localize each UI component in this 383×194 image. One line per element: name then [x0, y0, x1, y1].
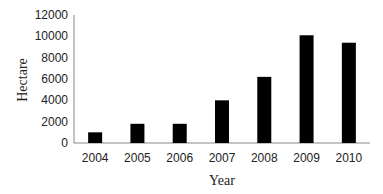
bar-2007	[215, 100, 229, 143]
x-tick-label: 2006	[166, 151, 193, 165]
x-axis-label: Year	[209, 173, 235, 188]
x-tick-label: 2004	[82, 151, 109, 165]
bar-2008	[257, 77, 271, 143]
bar-chart: 020004000600080001000012000 200420052006…	[0, 0, 383, 194]
bars	[88, 35, 356, 143]
y-tick-label: 4000	[41, 93, 68, 107]
y-tick-label: 8000	[41, 51, 68, 65]
x-tick-label: 2007	[209, 151, 236, 165]
x-tick-label: 2009	[293, 151, 320, 165]
bar-2006	[173, 124, 187, 143]
bar-2004	[88, 132, 102, 143]
bar-2005	[130, 124, 144, 143]
y-tick-label: 12000	[35, 8, 69, 22]
y-axis-ticks: 020004000600080001000012000	[35, 8, 69, 150]
y-tick-label: 6000	[41, 72, 68, 86]
x-axis-ticks: 2004200520062007200820092010	[82, 151, 363, 165]
x-tick-label: 2008	[251, 151, 278, 165]
y-tick-label: 2000	[41, 115, 68, 129]
bar-2009	[300, 35, 314, 143]
x-tick-label: 2005	[124, 151, 151, 165]
y-tick-label: 10000	[35, 29, 69, 43]
y-tick-label: 0	[61, 136, 68, 150]
bar-2010	[342, 43, 356, 143]
x-tick-label: 2010	[336, 151, 363, 165]
y-axis-label: Hectare	[15, 58, 30, 102]
